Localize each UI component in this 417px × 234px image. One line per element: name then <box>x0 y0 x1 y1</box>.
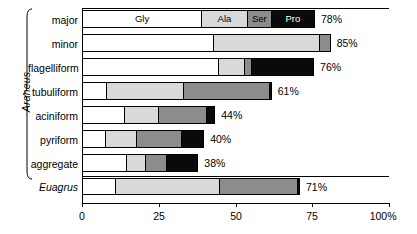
bar-row: 85% <box>82 32 389 56</box>
category-label-tubuliform: tubuliform <box>28 80 78 104</box>
category-label-minor: minor <box>28 32 78 56</box>
bar-segment-ser <box>145 154 166 172</box>
category-label-major: major <box>28 8 78 32</box>
x-axis-tick-label-25: 25 <box>153 210 165 222</box>
x-axis-tick <box>236 203 237 207</box>
bar-segment-pro <box>297 178 299 195</box>
bar-segment-ala <box>106 82 183 100</box>
bar-total-label: 76% <box>320 58 341 76</box>
bar-segment-pro <box>206 106 215 124</box>
x-axis-tick-label-0: 0 <box>79 210 85 222</box>
stacked-bar <box>82 82 272 100</box>
bar-segment-ala <box>124 106 158 124</box>
category-label-euagrus: Euagrus <box>28 176 78 198</box>
category-label-pyriform: pyriform <box>28 128 78 152</box>
stacked-bar <box>82 106 215 124</box>
category-label-aciniform: aciniform <box>28 104 78 128</box>
bar-total-label: 38% <box>204 154 225 172</box>
category-label-list: major minor flagelliform tubuliform acin… <box>28 8 78 198</box>
bar-row: 38% <box>82 152 389 176</box>
stacked-bar <box>82 130 204 148</box>
bar-segment-ser <box>136 130 181 148</box>
bar-segment-ala <box>126 154 145 172</box>
x-axis-tick <box>82 203 83 207</box>
plot-area: GlyAlaSerPro78% 85% 76% 61% 44% 40% 38% … <box>82 8 389 198</box>
bar-segment-ser <box>219 178 297 195</box>
bar-segment-gly <box>82 34 213 52</box>
category-label-flagelliform: flagelliform <box>28 56 78 80</box>
bar-segment-gly <box>82 130 105 148</box>
bar-row: 71% <box>82 176 389 198</box>
bar-row: 61% <box>82 80 389 104</box>
bar-segment-pro <box>166 154 199 172</box>
bar-row: 44% <box>82 104 389 128</box>
x-axis-tick-label-100: 100% <box>370 210 397 222</box>
bar-segment-ala <box>213 34 319 52</box>
bar-row: 76% <box>82 56 389 80</box>
bar-total-label: 40% <box>210 130 231 148</box>
bar-total-label: 78% <box>321 10 342 28</box>
bar-segment-ser: Ser <box>247 10 271 28</box>
stacked-bar: GlyAlaSerPro <box>82 10 315 28</box>
bar-segment-gly: Gly <box>82 10 201 28</box>
x-axis-tick <box>389 203 390 207</box>
bar-segment-ser <box>244 58 251 76</box>
stacked-bar <box>82 58 314 76</box>
bar-segment-ser <box>319 34 331 52</box>
bar-segment-pro <box>251 58 314 76</box>
bar-segment-gly <box>82 58 218 76</box>
bar-total-label: 71% <box>306 178 327 196</box>
stacked-bar-chart: Araneus major minor flagelliform tubulif… <box>0 0 417 234</box>
bar-segment-gly <box>82 178 115 195</box>
bar-segment-pro <box>269 82 272 100</box>
bar-row: GlyAlaSerPro78% <box>82 8 389 32</box>
bar-segment-pro <box>181 130 204 148</box>
bar-segment-ala <box>105 130 136 148</box>
bar-segment-ala <box>218 58 243 76</box>
bar-segment-gly <box>82 154 126 172</box>
bar-total-label: 85% <box>337 34 358 52</box>
x-axis-tick-label-50: 50 <box>230 210 242 222</box>
category-label-aggregate: aggregate <box>28 152 78 176</box>
x-axis-tick-label-75: 75 <box>306 210 318 222</box>
bar-segment-ala <box>115 178 219 195</box>
bar-segment-ser <box>183 82 268 100</box>
bar-segment-gly <box>82 82 106 100</box>
bar-segment-pro: Pro <box>271 10 315 28</box>
stacked-bar <box>82 154 198 172</box>
bar-segment-ala: Ala <box>201 10 247 28</box>
bar-total-label: 61% <box>278 82 299 100</box>
group-separator <box>82 176 389 177</box>
stacked-bar <box>82 178 300 195</box>
x-axis-tick <box>159 203 160 207</box>
bar-row: 40% <box>82 128 389 152</box>
bar-segment-gly <box>82 106 124 124</box>
stacked-bar <box>82 34 331 52</box>
x-axis-tick <box>312 203 313 207</box>
bar-total-label: 44% <box>221 106 242 124</box>
bar-segment-ser <box>158 106 207 124</box>
